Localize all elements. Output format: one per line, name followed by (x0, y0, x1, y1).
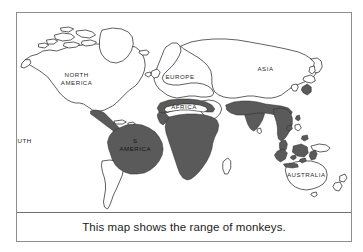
new-zealand-north-outline (340, 174, 347, 182)
caribbean-island-1 (114, 120, 126, 124)
caption-band: This map shows the range of monkeys. (17, 213, 351, 241)
label-europe: EUROPE (166, 73, 195, 80)
label-australia: AUSTRALIA (287, 171, 326, 178)
range-sumatra (274, 149, 287, 162)
sri-lanka-outline (258, 128, 262, 134)
new-zealand-south-outline (333, 182, 342, 191)
range-island-2 (290, 155, 296, 160)
range-japan-south (301, 84, 311, 95)
range-sulawesi (309, 150, 317, 160)
philippines-outline (295, 124, 301, 131)
world-map: NORTH AMERICA SOUTH AMERICA EUROPE AFRIC… (17, 13, 351, 212)
tasmania-outline (311, 192, 317, 197)
range-indochina (273, 108, 292, 141)
label-north-america-line1: NORTH (65, 71, 89, 78)
label-north-america-line2: AMERICA (61, 79, 93, 86)
map-figure: NORTH AMERICA SOUTH AMERICA EUROPE AFRIC… (0, 0, 363, 252)
arctic-island-7 (61, 27, 74, 32)
arctic-island-6 (39, 43, 49, 48)
korea-outline (291, 84, 298, 91)
world-map-svg: NORTH AMERICA SOUTH AMERICA EUROPE AFRIC… (17, 13, 351, 212)
monkey-range-shading (91, 84, 318, 180)
range-africa-main (165, 114, 219, 180)
range-island-3 (301, 135, 308, 141)
iceland-outline (139, 50, 149, 55)
ireland-outline (145, 72, 151, 77)
label-asia: ASIA (258, 65, 274, 72)
arctic-island-2 (77, 30, 96, 38)
alaska-outline (21, 60, 31, 68)
madagascar-outline (223, 158, 231, 174)
figure-frame: NORTH AMERICA SOUTH AMERICA EUROPE AFRIC… (16, 12, 352, 242)
label-south-america-line2: AMERICA (120, 145, 152, 152)
range-taiwan (295, 115, 300, 121)
range-java (283, 163, 298, 168)
map-caption: This map shows the range of monkeys. (82, 220, 286, 234)
label-africa: AFRICA (171, 103, 197, 110)
arctic-island-1 (55, 33, 75, 41)
arctic-island-5 (47, 39, 58, 44)
